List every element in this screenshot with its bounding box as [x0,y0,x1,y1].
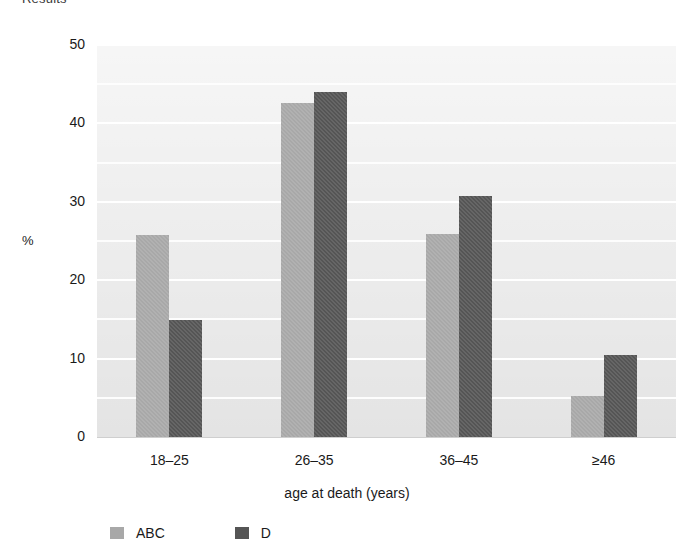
gridline [97,201,676,203]
x-axis-tick-label-1: 26–35 [295,452,334,468]
x-axis-line [97,437,676,438]
legend-item-abc[interactable]: ABC [110,525,165,541]
bar-abc-2 [426,234,459,437]
bar-abc-1 [281,103,314,437]
bar-texture [314,92,347,437]
bar-texture [571,396,604,437]
y-axis-tick-label: 10 [40,350,85,366]
bar-texture [459,196,492,437]
y-axis-tick-label: 20 [40,271,85,287]
bar-texture [136,235,169,437]
gridline [97,162,676,164]
x-axis-tick-labels: 18–2526–3536–45≥46 [97,452,676,472]
figure-container: Results 01020304050 % 18–2526–3536–45≥46… [0,0,694,558]
bar-texture [169,320,202,437]
gridline [97,45,676,46]
gridline [97,122,676,124]
gridline [97,240,676,242]
legend-swatch-icon [235,527,249,539]
bar-texture [604,355,637,437]
bar-abc-3 [571,396,604,437]
plot-area [97,45,676,437]
y-axis-tick-label: 30 [40,193,85,209]
legend: ABCD [110,525,271,541]
bar-texture [426,234,459,437]
y-axis-title: % [22,233,34,248]
legend-label: ABC [136,525,165,541]
bar-d-2 [459,196,492,437]
gridline [97,279,676,281]
y-axis-tick-label: 40 [40,114,85,130]
x-axis-tick-label-3: ≥46 [592,452,615,468]
bar-d-1 [314,92,347,437]
legend-item-d[interactable]: D [235,525,271,541]
y-axis-tick-labels: 01020304050 [40,0,85,558]
gridline [97,83,676,85]
x-axis-tick-label-0: 18–25 [150,452,189,468]
x-axis-tick-label-2: 36–45 [439,452,478,468]
legend-label: D [261,525,271,541]
y-axis-tick-label: 0 [40,428,85,444]
x-axis-title: age at death (years) [0,485,694,501]
y-axis-tick-label: 50 [40,36,85,52]
legend-swatch-icon [110,527,124,539]
bar-abc-0 [136,235,169,437]
bar-d-3 [604,355,637,437]
bar-texture [281,103,314,437]
bar-d-0 [169,320,202,437]
